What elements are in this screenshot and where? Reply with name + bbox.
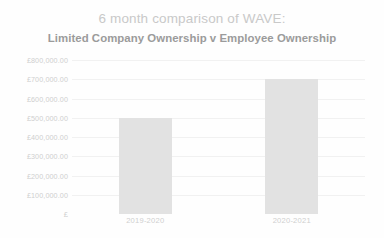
y-axis-tick-label: £200,000.00 <box>0 171 68 180</box>
y-axis-tick-label: £700,000.00 <box>0 75 68 84</box>
y-axis-tick-label: £600,000.00 <box>0 94 68 103</box>
y-axis-tick-label: £ <box>0 210 68 219</box>
y-axis-tick-label: £500,000.00 <box>0 113 68 122</box>
chart-container: 6 month comparison of WAVE: Limited Comp… <box>0 0 384 238</box>
y-axis-tick-label: £400,000.00 <box>0 133 68 142</box>
bar-series <box>72 60 365 214</box>
y-axis-tick-label: £300,000.00 <box>0 152 68 161</box>
x-axis: 2019-20202020-2021 <box>72 216 365 234</box>
bar-2020-2021[interactable] <box>265 79 318 214</box>
chart-subtitle: Limited Company Ownership v Employee Own… <box>0 30 384 46</box>
y-axis-tick-label: £100,000.00 <box>0 190 68 199</box>
y-axis: £800,000.00£700,000.00£600,000.00£500,00… <box>0 60 68 220</box>
x-axis-tick-label: 2020-2021 <box>273 216 311 225</box>
bar-2019-2020[interactable] <box>119 118 172 214</box>
page-title: 6 month comparison of WAVE: <box>0 10 384 27</box>
chart-title-block: 6 month comparison of WAVE: Limited Comp… <box>0 10 384 46</box>
x-axis-tick-label: 2019-2020 <box>126 216 164 225</box>
y-axis-tick-label: £800,000.00 <box>0 56 68 65</box>
